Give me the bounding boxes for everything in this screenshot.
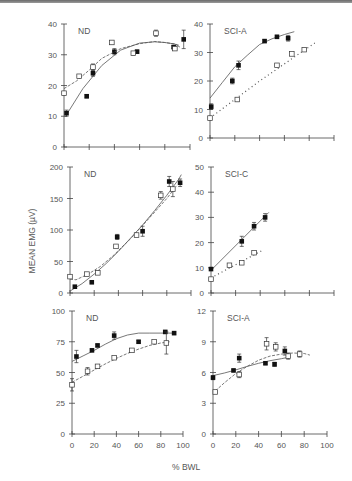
y-axis-label: MEAN EMG (µV) bbox=[27, 201, 37, 281]
data-point-open bbox=[77, 74, 82, 79]
x-tick-label: 0 bbox=[211, 441, 216, 450]
fit-line-open bbox=[64, 42, 180, 89]
data-point-filled bbox=[283, 349, 288, 354]
data-point-filled bbox=[112, 49, 117, 54]
x-tick-label: 40 bbox=[254, 441, 263, 450]
x-tick-label: 60 bbox=[134, 441, 143, 450]
data-point-open bbox=[134, 233, 139, 238]
data-point-open bbox=[114, 244, 119, 249]
data-point-filled bbox=[230, 79, 235, 84]
data-point-filled bbox=[239, 239, 244, 244]
data-point-filled bbox=[64, 111, 69, 116]
panel-bottom-right: 036912020406080100SCI-A bbox=[197, 307, 334, 450]
data-point-open bbox=[239, 260, 244, 265]
data-point-open bbox=[131, 51, 136, 56]
data-point-filled bbox=[90, 348, 95, 353]
x-tick-label: 100 bbox=[320, 441, 334, 450]
y-tick-label: 75 bbox=[56, 338, 65, 347]
y-tick-label: 3 bbox=[202, 399, 207, 408]
data-point-filled bbox=[112, 333, 117, 338]
data-point-filled bbox=[181, 37, 186, 42]
y-tick-label: 40 bbox=[48, 20, 57, 29]
y-tick-label: 100 bbox=[50, 226, 64, 235]
data-point-open bbox=[273, 345, 278, 350]
y-tick-label: 30 bbox=[194, 49, 203, 58]
data-point-open bbox=[286, 354, 291, 359]
data-point-filled bbox=[136, 339, 141, 344]
y-tick-label: 0 bbox=[61, 430, 66, 439]
y-tick-label: 0 bbox=[59, 289, 64, 298]
data-point-filled bbox=[95, 343, 100, 348]
y-tick-label: 100 bbox=[52, 307, 66, 316]
data-point-filled bbox=[262, 39, 267, 44]
data-point-filled bbox=[209, 267, 214, 272]
y-tick-label: 40 bbox=[195, 188, 204, 197]
panel-middle-right: 01020304050SCI-C bbox=[195, 163, 334, 298]
data-point-filled bbox=[231, 368, 236, 373]
data-point-open bbox=[252, 250, 257, 255]
fit-line-filled bbox=[67, 42, 180, 115]
y-tick-label: 0 bbox=[202, 430, 207, 439]
panel-middle-left: 050100150200ND bbox=[50, 163, 191, 298]
data-point-open bbox=[237, 372, 242, 377]
data-point-open bbox=[85, 272, 90, 277]
data-point-open bbox=[264, 342, 269, 347]
x-tick-label: 60 bbox=[277, 441, 286, 450]
data-point-filled bbox=[89, 280, 94, 285]
y-tick-label: 20 bbox=[194, 77, 203, 86]
data-point-open bbox=[227, 263, 232, 268]
data-point-open bbox=[173, 46, 178, 51]
panel-title: SCI-C bbox=[225, 169, 248, 179]
y-tick-label: 6 bbox=[202, 369, 207, 378]
x-axis-label: % BWL bbox=[172, 462, 200, 472]
data-point-filled bbox=[178, 180, 183, 185]
y-tick-label: 0 bbox=[199, 134, 204, 143]
y-tick-label: 200 bbox=[50, 163, 64, 172]
panel-title: ND bbox=[84, 169, 96, 179]
data-point-open bbox=[91, 65, 96, 70]
fit-line-filled bbox=[210, 32, 294, 98]
data-point-open bbox=[208, 116, 213, 121]
data-point-open bbox=[302, 47, 307, 52]
panel-top-left: 010203040ND bbox=[48, 20, 190, 152]
data-point-open bbox=[209, 277, 214, 282]
y-tick-label: 150 bbox=[50, 195, 64, 204]
data-point-open bbox=[171, 187, 176, 192]
data-point-open bbox=[164, 341, 169, 346]
data-point-filled bbox=[211, 375, 216, 380]
x-tick-label: 0 bbox=[70, 441, 75, 450]
x-tick-label: 40 bbox=[112, 441, 121, 450]
y-tick-label: 0 bbox=[53, 143, 58, 152]
fit-line-open bbox=[72, 342, 170, 383]
y-tick-label: 25 bbox=[56, 399, 65, 408]
data-point-open bbox=[290, 52, 295, 57]
y-tick-label: 10 bbox=[194, 106, 203, 115]
fit-line-filled bbox=[213, 357, 289, 376]
data-point-open bbox=[213, 390, 218, 395]
panel-bottom-left: 0255075100020406080100ND bbox=[52, 307, 191, 450]
data-point-filled bbox=[252, 224, 257, 229]
y-tick-label: 9 bbox=[202, 338, 207, 347]
y-tick-label: 20 bbox=[195, 239, 204, 248]
data-point-open bbox=[158, 193, 163, 198]
y-tick-label: 50 bbox=[195, 163, 204, 172]
data-point-open bbox=[68, 274, 73, 279]
data-point-open bbox=[70, 383, 75, 388]
data-point-filled bbox=[237, 356, 242, 361]
data-point-filled bbox=[275, 35, 280, 40]
panel-title: SCI-A bbox=[227, 313, 250, 323]
data-point-open bbox=[96, 271, 101, 276]
y-tick-label: 10 bbox=[195, 264, 204, 273]
y-tick-label: 20 bbox=[48, 82, 57, 91]
data-point-filled bbox=[263, 215, 268, 220]
data-point-filled bbox=[263, 361, 268, 366]
data-point-open bbox=[235, 97, 240, 102]
data-point-filled bbox=[236, 63, 241, 68]
data-point-filled bbox=[74, 354, 79, 359]
y-tick-label: 50 bbox=[54, 258, 63, 267]
data-point-filled bbox=[140, 229, 145, 234]
fit-line-open bbox=[210, 43, 315, 119]
data-point-open bbox=[275, 63, 280, 68]
y-tick-label: 40 bbox=[194, 20, 203, 29]
data-point-open bbox=[95, 364, 100, 369]
